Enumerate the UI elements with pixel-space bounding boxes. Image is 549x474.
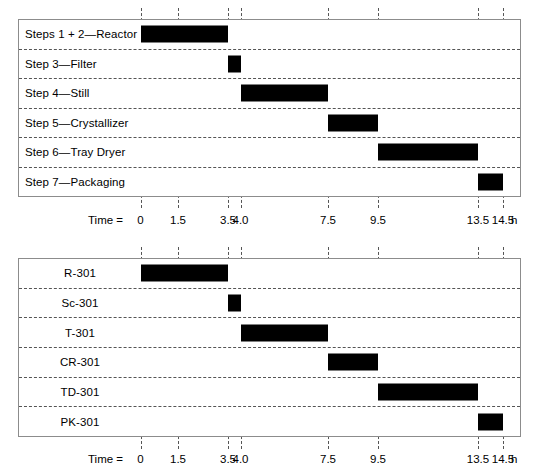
gantt-row: CR-301 xyxy=(19,348,520,378)
row-label: Step 5—Crystallizer xyxy=(25,116,129,129)
gantt-row: Sc-301 xyxy=(19,289,520,319)
axis-tick-label: 4.0 xyxy=(233,451,249,467)
axis-caption: Time = xyxy=(88,212,123,228)
axis-tick-label: 4.0 xyxy=(233,212,249,228)
axis-tick-label: 13.5 xyxy=(467,451,489,467)
axis-tick-label: 9.5 xyxy=(370,212,386,228)
row-label: Step 7—Packaging xyxy=(25,175,125,188)
row-label: Step 3—Filter xyxy=(25,57,97,70)
time-axis-top: Time = h 01.53.54.07.59.513.514.5 xyxy=(0,212,549,228)
gantt-row: Step 3—Filter xyxy=(19,50,520,80)
axis-tick-label: 9.5 xyxy=(370,451,386,467)
gantt-bar xyxy=(328,354,378,371)
row-label: T-301 xyxy=(19,326,141,339)
gantt-bar xyxy=(228,295,241,312)
row-label: PK-301 xyxy=(19,415,141,428)
row-label: R-301 xyxy=(19,267,141,280)
time-axis-bottom: Time = h 01.53.54.07.59.513.514.5 xyxy=(0,451,549,467)
gantt-bar xyxy=(141,26,229,43)
gantt-bar xyxy=(478,413,503,430)
axis-caption: Time = xyxy=(88,451,123,467)
gantt-row: R-301 xyxy=(19,259,520,289)
gantt-chart-equipment: R-301 Sc-301 T-301 CR-301 TD-301 PK-301 xyxy=(0,238,549,474)
gantt-rows-top: Steps 1 + 2—Reactor Step 3—Filter Step 4… xyxy=(19,20,520,196)
gantt-row: TD-301 xyxy=(19,378,520,408)
axis-tick-label: 7.5 xyxy=(320,212,336,228)
gantt-bar xyxy=(378,384,478,401)
gantt-bar xyxy=(228,55,241,72)
axis-tick-label: 7.5 xyxy=(320,451,336,467)
gantt-bar xyxy=(241,324,329,341)
row-label: Step 6—Tray Dryer xyxy=(25,146,125,159)
axis-tick-label: 1.5 xyxy=(170,212,186,228)
axis-tick-label: 14.5 xyxy=(492,451,514,467)
row-label: CR-301 xyxy=(19,356,141,369)
gantt-row: Step 4—Still xyxy=(19,79,520,109)
gantt-bar xyxy=(478,173,503,190)
row-label: TD-301 xyxy=(19,386,141,399)
row-label: Steps 1 + 2—Reactor xyxy=(25,28,137,41)
gantt-row: PK-301 xyxy=(19,407,520,436)
gantt-row: Step 6—Tray Dryer xyxy=(19,138,520,168)
row-label: Step 4—Still xyxy=(25,87,89,100)
axis-tick-label: 0 xyxy=(137,212,143,228)
axis-tick-label: 14.5 xyxy=(492,212,514,228)
axis-tick-label: 1.5 xyxy=(170,451,186,467)
row-label: Sc-301 xyxy=(19,297,141,310)
gantt-chart-steps: Steps 1 + 2—Reactor Step 3—Filter Step 4… xyxy=(0,0,549,238)
gantt-row: T-301 xyxy=(19,318,520,348)
gantt-rows-bottom: R-301 Sc-301 T-301 CR-301 TD-301 PK-301 xyxy=(19,259,520,436)
gantt-row: Step 5—Crystallizer xyxy=(19,109,520,139)
plot-frame-bottom: R-301 Sc-301 T-301 CR-301 TD-301 PK-301 xyxy=(18,258,521,437)
gantt-bar xyxy=(328,114,378,131)
gantt-row: Step 7—Packaging xyxy=(19,168,520,197)
gantt-bar xyxy=(241,85,329,102)
axis-tick-label: 13.5 xyxy=(467,212,489,228)
plot-frame-top: Steps 1 + 2—Reactor Step 3—Filter Step 4… xyxy=(18,19,521,197)
gantt-bar xyxy=(141,265,229,282)
axis-tick-label: 0 xyxy=(137,451,143,467)
gantt-bar xyxy=(378,144,478,161)
gantt-row: Steps 1 + 2—Reactor xyxy=(19,20,520,50)
